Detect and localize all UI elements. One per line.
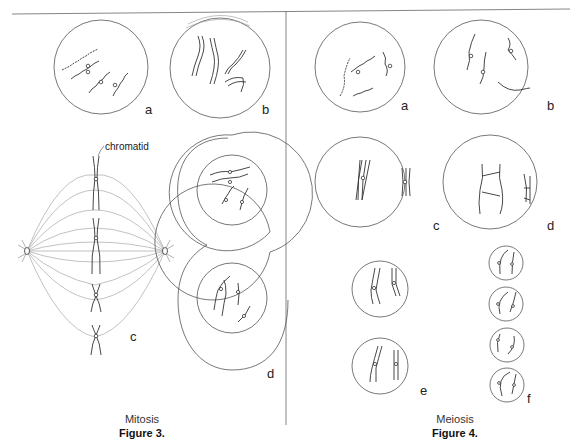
- panel-label-f: f: [527, 391, 531, 406]
- panel-label-b: b: [262, 102, 269, 117]
- figure-canvas: a b: [0, 0, 577, 446]
- meiosis-panel-d: d: [443, 135, 554, 233]
- meiosis-panel-b: b: [434, 20, 554, 114]
- meiosis-panel-c: c: [315, 137, 440, 233]
- panel-label-a: a: [145, 102, 153, 117]
- mitosis-panel-c: chromatid c: [18, 141, 174, 355]
- mitosis-panel-a: a: [54, 20, 153, 117]
- meiosis-caption: Meiosis: [436, 413, 474, 425]
- meiosis-panel-a: a: [315, 22, 409, 113]
- panel-label-d: d: [547, 218, 554, 233]
- mitosis-panel-d: d: [155, 132, 313, 381]
- top-rule: [12, 9, 570, 14]
- mitosis-panel-b: b: [170, 15, 270, 118]
- panel-label-a: a: [401, 98, 409, 113]
- mitosis-caption: Mitosis: [125, 413, 160, 425]
- panel-label-c: c: [130, 329, 137, 344]
- panel-label-d: d: [267, 366, 274, 381]
- meiosis-panel-f: f: [489, 246, 531, 406]
- chromatid-annotation: chromatid: [105, 141, 149, 152]
- panel-label-c: c: [433, 218, 440, 233]
- figure-3-title: Figure 3.: [119, 427, 165, 439]
- panel-label-b: b: [547, 98, 554, 113]
- meiosis-panel-e: e: [352, 261, 427, 398]
- figure-4-title: Figure 4.: [432, 427, 478, 439]
- panel-label-e: e: [420, 383, 427, 398]
